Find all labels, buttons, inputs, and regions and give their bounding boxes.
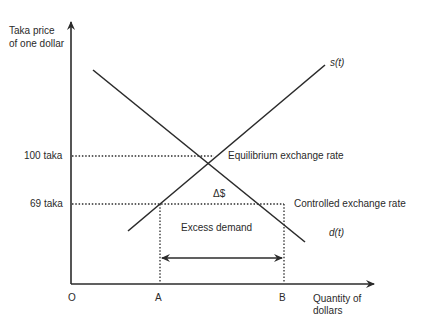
supply-curve-label: s(t): [330, 57, 344, 69]
delta-dollar-label: Δ$: [213, 188, 225, 200]
origin-label: O: [68, 292, 76, 304]
x-tick-a: A: [155, 292, 162, 304]
x-axis-label-line1: Quantity of: [313, 293, 361, 305]
demand-curve-label: d(t): [329, 227, 344, 239]
y-tick-100-taka: 100 taka: [24, 150, 62, 162]
y-axis-label-line1: Taka price: [9, 25, 55, 37]
x-axis-label-line2: dollars: [313, 305, 342, 317]
y-axis-label-line2: of one dollar: [9, 38, 64, 50]
equilibrium-rate-label: Equilibrium exchange rate: [228, 150, 344, 162]
x-tick-b: B: [279, 292, 286, 304]
y-tick-69-taka: 69 taka: [30, 198, 63, 210]
controlled-rate-label: Controlled exchange rate: [294, 198, 406, 210]
excess-demand-label: Excess demand: [181, 222, 252, 234]
